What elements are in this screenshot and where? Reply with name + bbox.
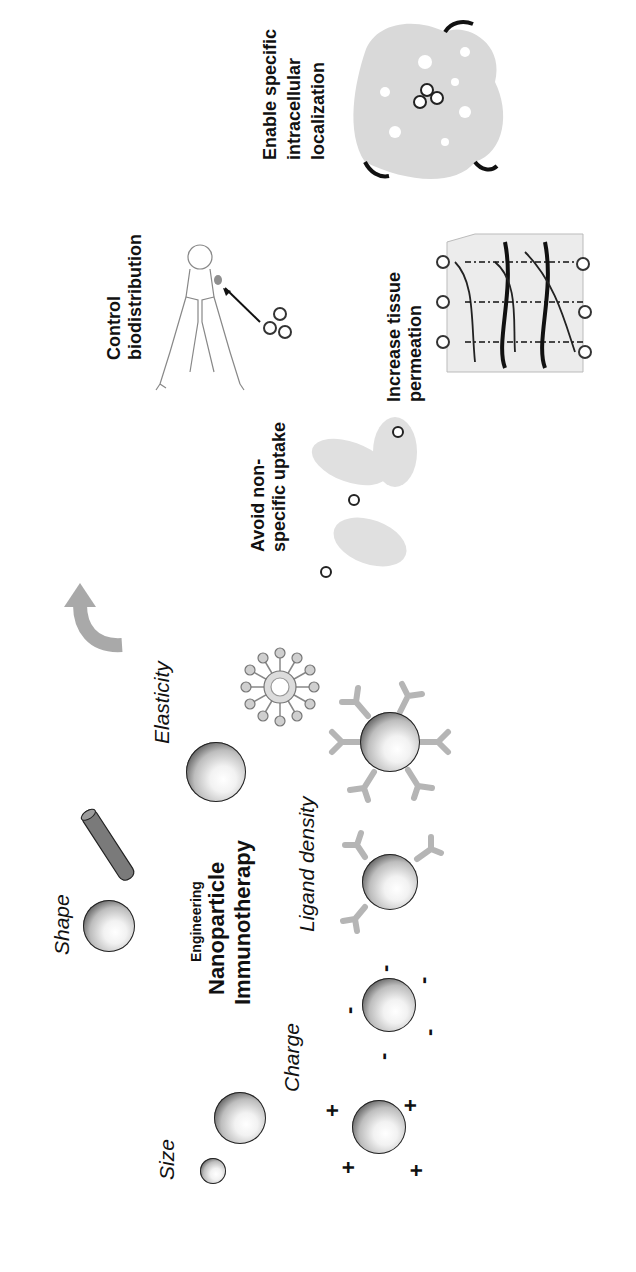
ligand-nanoparticle-sparse [362, 854, 418, 910]
macrophage-cells [310, 392, 420, 582]
minus-sign: - [372, 1053, 394, 1060]
rigid-nanoparticle [186, 742, 246, 802]
label-charge: Charge [280, 1023, 304, 1092]
outcome-tissue-permeation: Increase tissue permeation [384, 272, 426, 402]
dendritic-cell-icon [345, 12, 515, 192]
label-elasticity: Elasticity [150, 661, 174, 744]
ligand-nanoparticle-dense [360, 712, 420, 772]
tissue-section-icon [435, 232, 595, 382]
label-size: Size [155, 1139, 179, 1180]
minus-sign: - [338, 1007, 360, 1014]
rod-nanoparticle [88, 800, 128, 890]
negative-nanoparticle [362, 978, 416, 1032]
plus-sign: + [400, 1099, 422, 1112]
plus-sign: + [406, 1164, 428, 1177]
minus-sign: - [418, 1029, 440, 1036]
title-immunotherapy: Immunotherapy [230, 802, 256, 1005]
title-nanoparticle: Nanoparticle [204, 802, 230, 995]
plus-sign: + [338, 1161, 360, 1174]
outcome-intracellular: Enable specific intracellular localizati… [258, 29, 330, 160]
minus-sign: - [412, 977, 434, 984]
liposome-icon [240, 647, 320, 727]
minus-sign: - [374, 965, 396, 972]
large-nanoparticle [214, 1092, 266, 1144]
outcome-avoid-uptake: Avoid non- specific uptake [248, 422, 290, 552]
small-nanoparticle [200, 1158, 226, 1184]
curved-arrow-icon [62, 577, 132, 657]
label-ligand-density: Ligand density [295, 797, 319, 932]
label-shape: Shape [50, 894, 74, 955]
plus-sign: + [322, 1104, 344, 1117]
diagram-canvas: Size Shape Engineering Nanoparticle Immu… [0, 0, 636, 1272]
human-body-icon [130, 222, 300, 392]
title-engineering: Engineering [188, 802, 204, 962]
spherical-nanoparticle [83, 900, 135, 952]
title-block: Engineering Nanoparticle Immunotherapy [188, 802, 256, 1017]
